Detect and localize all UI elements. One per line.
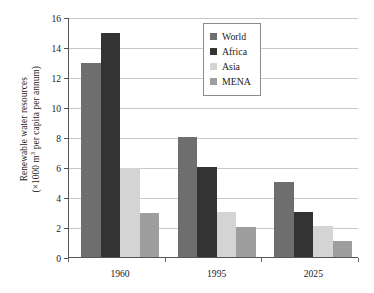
y-axis-title-unit-pre: (×1000 m [31, 155, 41, 192]
y-tick-mark [64, 198, 68, 199]
y-tick-label: 8 [56, 133, 61, 144]
legend-item-africa[interactable]: Africa [210, 44, 251, 59]
bar-world-2025 [274, 182, 294, 259]
bar-asia-2025 [313, 226, 333, 258]
legend-swatch-icon [210, 78, 217, 85]
bar-world-1960 [81, 63, 101, 258]
y-tick-label: 4 [56, 193, 61, 204]
x-tick-label: 1960 [110, 268, 129, 279]
y-tick-mark [64, 48, 68, 49]
x-tick-mark [358, 258, 359, 262]
legend-swatch-icon [210, 63, 217, 70]
y-tick-label: 6 [56, 163, 61, 174]
x-tick-mark [68, 258, 69, 262]
legend-swatch-icon [210, 48, 217, 55]
bar-mena-2025 [333, 241, 353, 258]
y-tick-label: 16 [51, 13, 61, 24]
bar-group [68, 18, 165, 258]
legend-label: Asia [222, 62, 240, 72]
legend-label: MENA [222, 77, 251, 87]
bar-mena-1995 [236, 227, 256, 259]
y-tick-mark [64, 78, 68, 79]
legend-item-asia[interactable]: Asia [210, 59, 251, 74]
y-axis-title-unit-post: per capita per annum) [31, 66, 41, 152]
bar-asia-1995 [217, 212, 237, 258]
x-axis-line [68, 257, 358, 258]
legend: WorldAfricaAsiaMENA [203, 23, 261, 96]
legend-label: World [222, 32, 246, 42]
y-axis-line [68, 18, 69, 258]
bar-world-1995 [178, 137, 198, 258]
y-axis-title-line1: Renewable water resources [19, 77, 29, 181]
y-axis-title-line2: (×1000 m3 per capita per annum) [30, 66, 42, 193]
legend-item-mena[interactable]: MENA [210, 74, 251, 89]
y-axis-title: Renewable water resources (×1000 m3 per … [10, 0, 50, 258]
bar-africa-1960 [101, 33, 121, 258]
y-tick-label: 2 [56, 223, 61, 234]
bar-group [261, 18, 358, 258]
y-tick-label: 14 [51, 43, 61, 54]
y-axis-title-exponent: 3 [29, 152, 36, 155]
bar-chart: Renewable water resources (×1000 m3 per … [0, 0, 374, 293]
bar-africa-2025 [294, 212, 314, 259]
legend-item-world[interactable]: World [210, 29, 251, 44]
legend-swatch-icon [210, 33, 217, 40]
x-tick-mark [261, 258, 262, 262]
y-tick-mark [64, 168, 68, 169]
y-tick-label: 12 [51, 73, 61, 84]
bar-mena-1960 [140, 213, 160, 258]
y-tick-label: 10 [51, 103, 61, 114]
bar-africa-1995 [197, 167, 217, 258]
y-tick-mark [64, 138, 68, 139]
x-tick-label: 1995 [207, 268, 226, 279]
y-tick-label: 0 [56, 253, 61, 264]
legend-label: Africa [222, 47, 247, 57]
x-tick-label: 2025 [304, 268, 323, 279]
y-tick-mark [64, 258, 68, 259]
y-tick-mark [64, 108, 68, 109]
y-tick-mark [64, 228, 68, 229]
bar-asia-1960 [120, 168, 140, 258]
y-tick-mark [64, 18, 68, 19]
x-tick-mark [165, 258, 166, 262]
